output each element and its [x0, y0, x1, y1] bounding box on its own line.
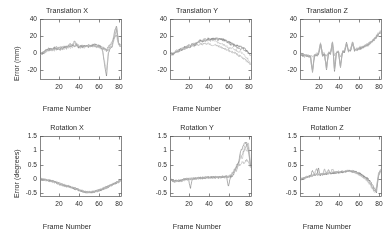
y-tick-label: 40: [14, 16, 37, 23]
x-tick-label: 40: [199, 201, 219, 208]
subplot-translation-x: Translation XFrame NumberError (mm)20406…: [0, 0, 130, 117]
x-axis-label-rotation-x: Frame Number: [2, 223, 132, 230]
x-tick-label: 60: [219, 84, 239, 91]
x-tick-label: 60: [349, 201, 369, 208]
x-tick-label: 40: [69, 84, 89, 91]
y-tick-label: 40: [144, 16, 167, 23]
y-tick-label: -20: [14, 67, 37, 74]
x-tick-label: 20: [49, 84, 69, 91]
x-axis-label-rotation-z: Frame Number: [262, 223, 390, 230]
y-tick-label: 20: [274, 33, 297, 40]
y-tick-label: 20: [14, 33, 37, 40]
x-tick-label: 80: [109, 201, 129, 208]
y-tick-label: 1: [274, 147, 297, 154]
y-tick-label: 0.5: [274, 162, 297, 169]
y-tick-label: 40: [274, 16, 297, 23]
y-tick-label: 1.5: [274, 133, 297, 140]
x-tick-label: 20: [49, 201, 69, 208]
y-tick-label: 0: [144, 50, 167, 57]
x-tick-label: 80: [239, 84, 259, 91]
subplot-title-translation-y: Translation Y: [132, 7, 262, 14]
y-tick-label: 0: [274, 50, 297, 57]
y-tick-label: 1: [144, 147, 167, 154]
subplot-translation-z: Translation ZFrame Number20406080-200204…: [260, 0, 390, 117]
x-tick-label: 20: [179, 201, 199, 208]
x-tick-label: 40: [199, 84, 219, 91]
x-tick-label: 60: [89, 84, 109, 91]
x-tick-label: 80: [369, 201, 389, 208]
x-axis-label-translation-y: Frame Number: [132, 105, 262, 112]
x-axis-label-translation-z: Frame Number: [262, 105, 390, 112]
y-tick-label: 20: [144, 33, 167, 40]
y-tick-label: 0: [274, 176, 297, 183]
subplot-title-rotation-y: Rotation Y: [132, 124, 262, 131]
y-tick-label: 0: [14, 50, 37, 57]
subplot-title-translation-x: Translation X: [2, 7, 132, 14]
subplot-grid: Translation XFrame NumberError (mm)20406…: [0, 0, 390, 235]
subplot-rotation-y: Rotation YFrame Number20406080-0.500.511…: [130, 117, 260, 235]
y-tick-label: 0: [144, 176, 167, 183]
x-tick-label: 80: [369, 84, 389, 91]
subplot-title-translation-z: Translation Z: [262, 7, 390, 14]
x-tick-label: 60: [349, 84, 369, 91]
subplot-title-rotation-x: Rotation X: [2, 124, 132, 131]
x-tick-label: 40: [329, 201, 349, 208]
x-axis-label-rotation-y: Frame Number: [132, 223, 262, 230]
subplot-title-rotation-z: Rotation Z: [262, 124, 390, 131]
x-tick-label: 40: [329, 84, 349, 91]
subplot-rotation-z: Rotation ZFrame Number20406080-0.500.511…: [260, 117, 390, 235]
x-tick-label: 20: [179, 84, 199, 91]
y-tick-label: 1.5: [14, 133, 37, 140]
y-tick-label: 1.5: [144, 133, 167, 140]
x-tick-label: 20: [309, 84, 329, 91]
x-axis-label-translation-x: Frame Number: [2, 105, 132, 112]
x-tick-label: 80: [109, 84, 129, 91]
y-tick-label: 1: [14, 147, 37, 154]
y-tick-label: 0.5: [144, 162, 167, 169]
y-tick-label: 0: [14, 176, 37, 183]
y-tick-label: -20: [144, 67, 167, 74]
figure-panel: Translation XFrame NumberError (mm)20406…: [0, 0, 390, 235]
x-tick-label: 20: [309, 201, 329, 208]
y-tick-label: -20: [274, 67, 297, 74]
y-tick-label: -0.5: [274, 190, 297, 197]
x-tick-label: 60: [89, 201, 109, 208]
x-tick-label: 60: [219, 201, 239, 208]
y-tick-label: -0.5: [14, 190, 37, 197]
y-tick-label: 0.5: [14, 162, 37, 169]
x-tick-label: 40: [69, 201, 89, 208]
y-tick-label: -0.5: [144, 190, 167, 197]
subplot-rotation-x: Rotation XFrame NumberError (degrees)204…: [0, 117, 130, 235]
x-tick-label: 80: [239, 201, 259, 208]
subplot-translation-y: Translation YFrame Number20406080-200204…: [130, 0, 260, 117]
